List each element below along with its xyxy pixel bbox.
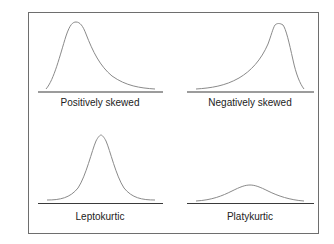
positively-skewed-curve [46, 22, 155, 89]
panel-platykurtic: Platykurtic [187, 185, 314, 222]
panel-negatively-skewed: Negatively skewed [187, 24, 314, 109]
panel-leptokurtic: Leptokurtic [38, 135, 163, 222]
panel-positively-skewed: Positively skewed [38, 22, 163, 108]
positively-skewed-label: Positively skewed [61, 97, 140, 108]
leptokurtic-label: Leptokurtic [76, 211, 125, 222]
distribution-shapes-diagram: Positively skewed Negatively skewed Lept… [0, 0, 334, 244]
leptokurtic-curve [47, 135, 155, 200]
diagram-frame [29, 13, 319, 234]
negatively-skewed-curve [196, 24, 304, 90]
negatively-skewed-label: Negatively skewed [208, 97, 291, 108]
platykurtic-label: Platykurtic [227, 211, 273, 222]
platykurtic-curve [196, 185, 304, 201]
